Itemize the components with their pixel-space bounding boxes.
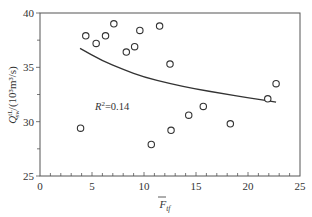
data-point (137, 27, 143, 33)
data-point (156, 23, 162, 29)
data-point (83, 33, 89, 39)
data-points (77, 21, 279, 148)
y-tick-label: 40 (23, 7, 35, 19)
y-tick-label: 25 (23, 170, 35, 182)
axis-ticks (36, 13, 290, 176)
x-tick-label: 10 (139, 180, 151, 192)
data-point (123, 49, 129, 55)
x-tick-label: 15 (191, 180, 203, 192)
x-tick-label: 25 (295, 180, 307, 192)
data-point (265, 96, 271, 102)
data-point (102, 33, 108, 39)
r-squared-annotation: R2=0.14 (94, 100, 130, 112)
x-tick-label: 5 (89, 180, 95, 192)
y-tick-label: 30 (23, 116, 35, 128)
data-point (200, 103, 206, 109)
x-tick-label: 0 (37, 180, 43, 192)
data-point (168, 127, 174, 133)
data-point (186, 112, 192, 118)
y-axis-label: QtLsw/(10³m³/s) (6, 66, 21, 124)
fit-curve (80, 48, 276, 102)
data-point (148, 141, 154, 147)
x-axis-label: Ftf (159, 198, 172, 213)
data-point (273, 80, 279, 86)
x-tick-labels: 0510152025 (37, 180, 306, 192)
data-point (111, 21, 117, 27)
y-tick-label: 35 (23, 61, 35, 73)
x-tick-label: 20 (243, 180, 255, 192)
data-point (227, 121, 233, 127)
data-point (93, 40, 99, 46)
y-tick-labels: 25303540 (23, 7, 35, 182)
scatter-chart: 0510152025 25303540 R2=0.14 Ftf QtLsw/(1… (0, 0, 312, 217)
data-point (167, 61, 173, 67)
plot-frame (40, 13, 300, 176)
data-point (131, 43, 137, 49)
data-point (77, 125, 83, 131)
